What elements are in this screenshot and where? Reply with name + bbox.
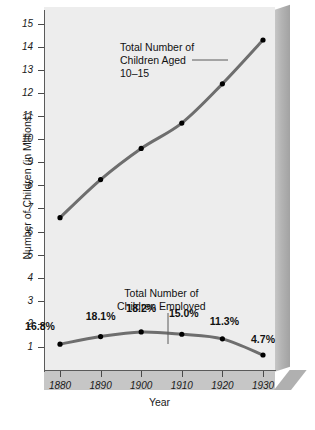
percent-label-1900: 18.2% [119, 302, 163, 314]
x-tick-label-1900: 1900 [121, 380, 161, 391]
y-tick-13 [38, 70, 44, 71]
y-tick-10 [38, 139, 44, 140]
x-axis-title: Year [44, 396, 275, 408]
percent-label-1880: 16.8% [18, 320, 62, 332]
x-tick-1900 [141, 371, 142, 377]
x-tick-1910 [182, 371, 183, 377]
y-tick-9 [38, 162, 44, 163]
x-axis-line [44, 370, 276, 371]
y-tick-11 [38, 116, 44, 117]
x-tick-label-1880: 1880 [40, 380, 80, 391]
y-tick-1 [38, 347, 44, 348]
chart-figure: 123456789101112131415 188018901900191019… [0, 0, 315, 430]
percent-label-1890: 18.1% [79, 310, 123, 322]
y-tick-15 [38, 24, 44, 25]
percent-label-1910: 15.0% [162, 307, 206, 319]
y-tick-4 [38, 278, 44, 279]
y-tick-5 [38, 255, 44, 256]
y-tick-3 [38, 301, 44, 302]
y-tick-7 [38, 208, 44, 209]
x-tick-label-1920: 1920 [202, 380, 242, 391]
y-tick-6 [38, 232, 44, 233]
x-tick-1880 [60, 371, 61, 377]
upper-series-annotation: Total Number of Children Aged 10–15 [120, 41, 194, 80]
percent-label-1920: 11.3% [202, 315, 246, 327]
x-tick-1920 [222, 371, 223, 377]
y-tick-label-1: 1 [7, 342, 33, 352]
x-tick-label-1910: 1910 [162, 380, 202, 391]
y-axis-title: Number of Children (in Millions) [21, 66, 33, 306]
chart-3d-right-face [274, 5, 290, 372]
y-axis-line [44, 10, 45, 372]
y-tick-8 [38, 185, 44, 186]
y-tick-12 [38, 93, 44, 94]
x-tick-1890 [101, 371, 102, 377]
y-tick-14 [38, 47, 44, 48]
y-tick-label-15: 15 [7, 19, 33, 29]
x-tick-label-1930: 1930 [243, 380, 283, 391]
x-tick-1930 [263, 371, 264, 377]
x-tick-label-1890: 1890 [81, 380, 121, 391]
y-tick-label-14: 14 [7, 42, 33, 52]
percent-label-1930: 4.7% [241, 333, 285, 345]
